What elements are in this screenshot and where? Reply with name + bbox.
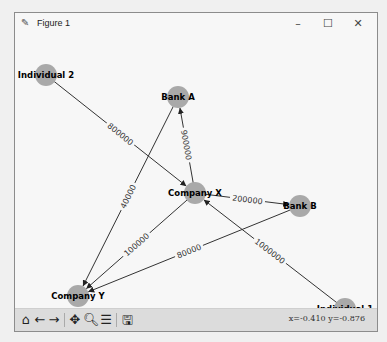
node-label: Company X bbox=[168, 188, 222, 198]
edge-label: 100000 bbox=[122, 231, 151, 258]
zoom-icon[interactable]: 🔍︎ bbox=[83, 312, 97, 328]
node-label: Bank A bbox=[161, 92, 195, 102]
edge-label: 80000 bbox=[176, 243, 203, 261]
minimize-button[interactable]: – bbox=[285, 15, 311, 33]
toolbar-divider bbox=[64, 313, 65, 327]
edge-label: 900000 bbox=[179, 129, 193, 161]
configure-subplots-icon[interactable]: ☰ bbox=[99, 312, 113, 328]
plot-canvas[interactable]: 8000009000002000001000004000080000100000… bbox=[15, 35, 377, 309]
edge-label: 40000 bbox=[119, 183, 138, 210]
cursor-coordinates: x=-0.410 y=-0.876 bbox=[289, 314, 365, 323]
edge-label: 800000 bbox=[105, 121, 135, 147]
toolbar-divider bbox=[116, 313, 117, 327]
title-bar[interactable]: ✎ Figure 1 – ☐ ✕ bbox=[15, 13, 377, 35]
node-label: Company Y bbox=[51, 291, 105, 301]
matplotlib-icon: ✎ bbox=[21, 17, 33, 29]
edge-label: 200000 bbox=[232, 194, 263, 207]
network-graph: 8000009000002000001000004000080000100000… bbox=[15, 35, 377, 309]
back-arrow-icon[interactable]: ← bbox=[33, 312, 47, 328]
save-icon[interactable]: 🖫 bbox=[120, 312, 134, 328]
home-icon[interactable]: ⌂ bbox=[19, 312, 33, 328]
node-label: Individual 2 bbox=[18, 70, 74, 80]
forward-arrow-icon[interactable]: → bbox=[47, 312, 61, 328]
node-label: Bank B bbox=[283, 201, 316, 211]
window-title: Figure 1 bbox=[37, 17, 70, 29]
close-button[interactable]: ✕ bbox=[345, 15, 371, 33]
edge-label: 1000000 bbox=[253, 237, 287, 266]
navigation-toolbar: ⌂ ← → ✥ 🔍︎ ☰ 🖫 x=-0.410 y=-0.876 bbox=[15, 308, 377, 331]
figure-window: ✎ Figure 1 – ☐ ✕ 80000090000020000010000… bbox=[14, 12, 378, 332]
maximize-button[interactable]: ☐ bbox=[315, 15, 341, 33]
pan-icon[interactable]: ✥ bbox=[68, 312, 82, 328]
